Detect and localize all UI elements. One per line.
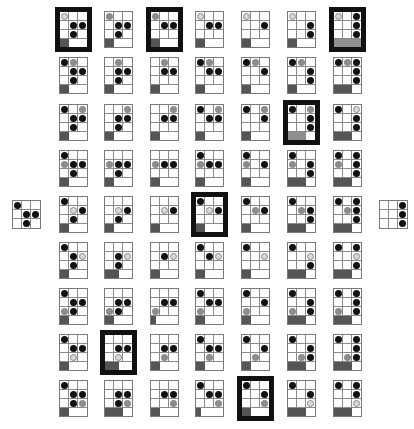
board-cell bbox=[160, 215, 169, 224]
board-cell bbox=[160, 252, 169, 261]
progress-bar bbox=[288, 39, 315, 47]
board-cell bbox=[60, 289, 69, 298]
board-grid bbox=[105, 12, 132, 39]
state-board[interactable] bbox=[287, 288, 316, 325]
black-piece-icon bbox=[197, 59, 204, 66]
state-board[interactable] bbox=[195, 104, 224, 141]
state-board[interactable] bbox=[150, 57, 179, 94]
state-board[interactable] bbox=[59, 242, 88, 279]
black-piece-icon bbox=[170, 207, 177, 214]
board-cell bbox=[169, 123, 178, 132]
state-board[interactable] bbox=[150, 150, 179, 187]
state-board[interactable] bbox=[146, 7, 183, 52]
state-board[interactable] bbox=[195, 334, 224, 371]
progress-bar bbox=[151, 132, 178, 140]
state-board[interactable] bbox=[329, 7, 366, 52]
board-cell bbox=[105, 335, 114, 344]
state-board[interactable] bbox=[237, 376, 274, 421]
board-cell bbox=[160, 169, 169, 178]
state-board[interactable] bbox=[195, 150, 224, 187]
state-board[interactable] bbox=[283, 100, 320, 145]
state-board[interactable] bbox=[104, 380, 133, 417]
state-board[interactable] bbox=[333, 150, 362, 187]
state-board[interactable] bbox=[333, 104, 362, 141]
state-board[interactable] bbox=[287, 380, 316, 417]
progress-bar bbox=[288, 270, 315, 278]
board-cell bbox=[352, 353, 361, 362]
board-cell bbox=[60, 160, 69, 169]
state-board[interactable] bbox=[195, 380, 224, 417]
board-cell bbox=[105, 307, 114, 316]
state-board[interactable] bbox=[104, 57, 133, 94]
state-board[interactable] bbox=[150, 380, 179, 417]
state-board[interactable] bbox=[150, 196, 179, 233]
board-cell bbox=[160, 298, 169, 307]
state-board[interactable] bbox=[104, 196, 133, 233]
board-cell bbox=[151, 390, 160, 399]
progress-bar bbox=[334, 362, 361, 370]
board-cell bbox=[297, 76, 306, 85]
state-board[interactable] bbox=[104, 242, 133, 279]
board-cell bbox=[288, 197, 297, 206]
state-board[interactable] bbox=[59, 380, 88, 417]
state-board[interactable] bbox=[241, 57, 270, 94]
progress-bar bbox=[334, 178, 361, 186]
state-board[interactable] bbox=[287, 57, 316, 94]
state-board[interactable] bbox=[333, 242, 362, 279]
state-board[interactable] bbox=[59, 334, 88, 371]
state-board[interactable] bbox=[333, 196, 362, 233]
state-board[interactable] bbox=[333, 288, 362, 325]
state-board[interactable] bbox=[191, 192, 228, 237]
board-cell bbox=[114, 298, 123, 307]
state-board[interactable] bbox=[104, 150, 133, 187]
board-cell bbox=[196, 76, 205, 85]
black-piece-icon bbox=[170, 161, 177, 168]
state-board[interactable] bbox=[59, 288, 88, 325]
state-board[interactable] bbox=[287, 334, 316, 371]
board-cell bbox=[151, 58, 160, 67]
state-board[interactable] bbox=[104, 288, 133, 325]
black-piece-icon bbox=[353, 216, 360, 223]
state-board[interactable] bbox=[241, 242, 270, 279]
state-board[interactable] bbox=[55, 7, 92, 52]
state-board[interactable] bbox=[241, 11, 270, 48]
state-board[interactable] bbox=[195, 242, 224, 279]
state-board[interactable] bbox=[333, 334, 362, 371]
state-board[interactable] bbox=[287, 11, 316, 48]
state-board[interactable] bbox=[100, 330, 137, 375]
board-cell bbox=[380, 210, 389, 219]
state-board[interactable] bbox=[104, 104, 133, 141]
state-board[interactable] bbox=[150, 288, 179, 325]
progress-bar bbox=[334, 316, 361, 324]
state-board[interactable] bbox=[150, 104, 179, 141]
board-cell bbox=[151, 76, 160, 85]
state-board[interactable] bbox=[333, 57, 362, 94]
state-board[interactable] bbox=[59, 57, 88, 94]
state-board[interactable] bbox=[333, 380, 362, 417]
board-cell bbox=[205, 381, 214, 390]
state-board[interactable] bbox=[287, 242, 316, 279]
state-board[interactable] bbox=[195, 288, 224, 325]
start-board[interactable] bbox=[12, 200, 41, 229]
board-cell bbox=[114, 344, 123, 353]
state-board[interactable] bbox=[195, 11, 224, 48]
state-board[interactable] bbox=[59, 104, 88, 141]
state-board[interactable] bbox=[241, 288, 270, 325]
state-board[interactable] bbox=[150, 334, 179, 371]
state-board[interactable] bbox=[241, 150, 270, 187]
ring-piece-icon bbox=[115, 207, 122, 214]
state-board[interactable] bbox=[287, 196, 316, 233]
progress-bar bbox=[334, 132, 361, 140]
goal-board[interactable] bbox=[379, 200, 408, 229]
state-board[interactable] bbox=[150, 242, 179, 279]
state-board[interactable] bbox=[195, 57, 224, 94]
state-board[interactable] bbox=[59, 196, 88, 233]
board-grid bbox=[288, 243, 315, 270]
state-board[interactable] bbox=[241, 104, 270, 141]
state-board[interactable] bbox=[287, 150, 316, 187]
state-board[interactable] bbox=[241, 196, 270, 233]
board-cell bbox=[214, 197, 223, 206]
state-board[interactable] bbox=[241, 334, 270, 371]
state-board[interactable] bbox=[104, 11, 133, 48]
state-board[interactable] bbox=[59, 150, 88, 187]
